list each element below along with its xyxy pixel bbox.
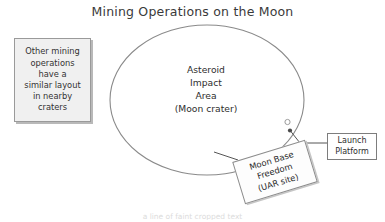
launch-platform-callout-box: Launch Platform <box>327 133 377 160</box>
launch-platform-marker-icon <box>285 119 290 124</box>
page-title: Mining Operations on the Moon <box>0 4 385 19</box>
bottom-cropped-text: a line of faint cropped text <box>0 212 385 220</box>
crater-area-label: Asteroid Impact Area (Moon crater) <box>150 63 262 115</box>
diagram-canvas: Mining Operations on the Moon Other mini… <box>0 0 385 222</box>
other-mining-note-box: Other mining operations have a similar l… <box>14 38 91 122</box>
launch-platform-leader-line <box>291 131 328 143</box>
other-mining-note-text: Other mining operations have a similar l… <box>22 46 82 113</box>
launch-platform-label: Launch Platform <box>335 136 369 157</box>
moon-base-label: Moon Base Freedom (UAR site) <box>248 149 302 195</box>
